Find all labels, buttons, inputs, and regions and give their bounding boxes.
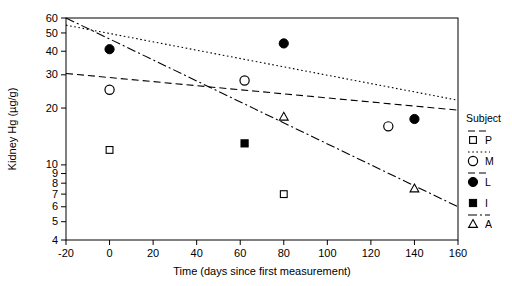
y-tick-label-10: 10: [46, 158, 58, 170]
x-tick-label-160: 160: [449, 247, 467, 259]
scatter-plot: 456789102030405060-200204060801001201401…: [0, 0, 512, 286]
plot-frame: [66, 18, 458, 240]
y-tick-label-4: 4: [52, 234, 58, 246]
y-tick-label-5: 5: [52, 215, 58, 227]
legend-marker-M[interactable]: [468, 156, 477, 165]
y-axis-title: Kidney Hg (µg/g): [6, 88, 18, 171]
x-tick-label-80: 80: [278, 247, 290, 259]
x-tick-label--20: -20: [58, 247, 74, 259]
x-tick-label-100: 100: [318, 247, 336, 259]
fit-line-A: [66, 18, 458, 207]
x-tick-label-60: 60: [234, 247, 246, 259]
data-point-M[interactable]: [105, 85, 114, 94]
x-tick-label-40: 40: [191, 247, 203, 259]
legend-label-A: A: [485, 218, 492, 230]
legend-label-P: P: [485, 134, 492, 146]
chart-container: 456789102030405060-200204060801001201401…: [0, 0, 512, 286]
x-tick-label-140: 140: [405, 247, 423, 259]
legend-title: Subject: [466, 112, 501, 124]
y-tick-label-60: 60: [46, 12, 58, 24]
data-point-I[interactable]: [241, 140, 248, 147]
x-tick-label-20: 20: [147, 247, 159, 259]
fit-line-M: [66, 73, 458, 110]
data-point-L[interactable]: [279, 39, 288, 48]
x-axis-title: Time (days since first measurement): [173, 265, 350, 277]
data-point-A[interactable]: [279, 112, 288, 120]
y-tick-label-50: 50: [46, 27, 58, 39]
data-point-M[interactable]: [240, 76, 249, 85]
x-tick-label-120: 120: [362, 247, 380, 259]
legend-label-L: L: [485, 176, 491, 188]
y-tick-label-7: 7: [52, 188, 58, 200]
legend-marker-P[interactable]: [470, 137, 477, 144]
data-point-P[interactable]: [280, 191, 287, 198]
data-point-P[interactable]: [106, 147, 113, 154]
data-point-L[interactable]: [105, 45, 114, 54]
legend-marker-I[interactable]: [469, 199, 476, 206]
legend-label-I: I: [485, 197, 488, 209]
x-tick-label-0: 0: [106, 247, 112, 259]
y-tick-label-6: 6: [52, 200, 58, 212]
y-tick-label-40: 40: [46, 45, 58, 57]
legend-marker-L[interactable]: [468, 177, 477, 186]
legend-marker-A[interactable]: [469, 220, 478, 228]
y-tick-label-20: 20: [46, 102, 58, 114]
data-point-A[interactable]: [410, 184, 419, 192]
fit-line-P: [66, 25, 458, 100]
data-point-M[interactable]: [384, 122, 393, 131]
y-tick-label-30: 30: [46, 68, 58, 80]
data-point-L[interactable]: [410, 114, 419, 123]
legend-label-M: M: [485, 155, 494, 167]
